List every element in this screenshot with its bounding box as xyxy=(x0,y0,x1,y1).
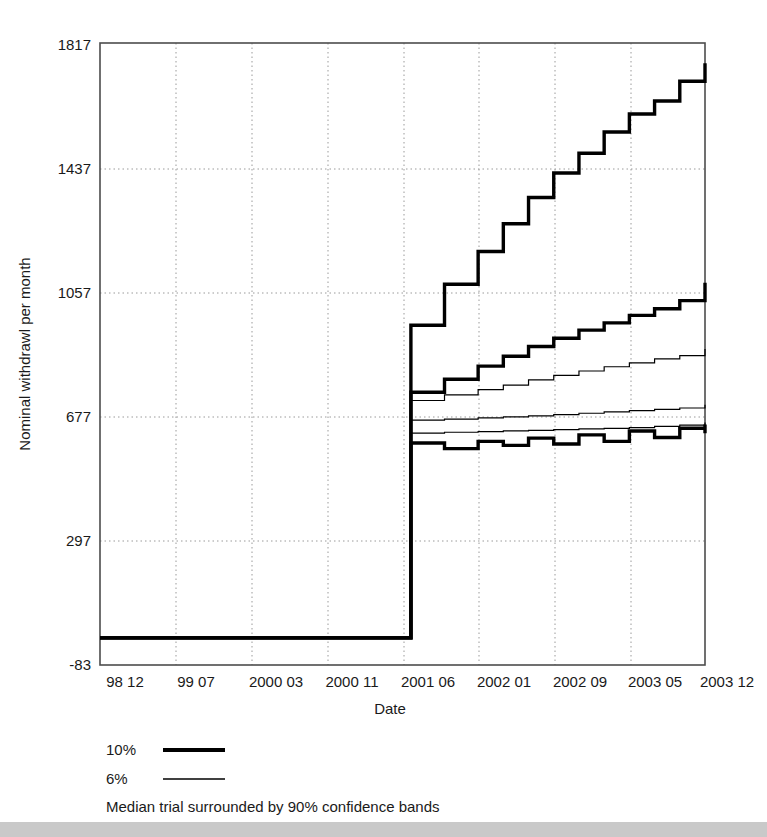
legend-caption: Median trial surrounded by 90% confidenc… xyxy=(106,798,440,815)
legend-label-10pct: 10% xyxy=(106,741,136,758)
x-tick-label: 2000 11 xyxy=(325,673,378,690)
line-chart-svg: 1817 1437 1057 677 297 -83 98 12 99 07 2… xyxy=(0,0,767,837)
legend: 10% 6% Median trial surrounded by 90% co… xyxy=(106,741,440,815)
bottom-strip xyxy=(0,822,767,837)
y-tick-label: -83 xyxy=(69,656,91,673)
y-axis-title: Nominal withdrawl per month xyxy=(16,257,33,450)
x-tick-label: 2000 03 xyxy=(249,673,303,690)
y-tick-label: 677 xyxy=(66,408,91,425)
chart-figure: 1817 1437 1057 677 297 -83 98 12 99 07 2… xyxy=(0,0,767,837)
x-tick-label: 99 07 xyxy=(177,673,215,690)
x-tick-label: 2003 12 xyxy=(700,673,754,690)
x-tick-label: 2001 06 xyxy=(401,673,455,690)
legend-label-6pct: 6% xyxy=(106,770,128,787)
x-tick-label: 98 12 xyxy=(106,673,144,690)
x-tick-label: 2002 09 xyxy=(553,673,607,690)
y-tick-label: 297 xyxy=(66,532,91,549)
x-tick-label: 2002 01 xyxy=(477,673,531,690)
x-tick-label: 2003 05 xyxy=(628,673,682,690)
y-tick-label: 1437 xyxy=(58,160,91,177)
y-tick-label: 1057 xyxy=(58,284,91,301)
x-axis-title: Date xyxy=(374,700,406,717)
plot-background xyxy=(100,43,705,665)
y-tick-label: 1817 xyxy=(58,36,91,53)
